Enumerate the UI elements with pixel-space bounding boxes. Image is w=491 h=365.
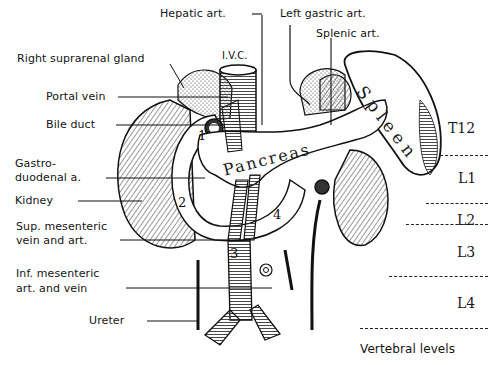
label-ivc: I.V.C. bbox=[222, 50, 248, 62]
label-kidney: Kidney bbox=[15, 195, 53, 207]
level-l1: L1 bbox=[458, 170, 476, 186]
label-gastroduodenal-a: Gastro- duodenal a. bbox=[15, 157, 81, 185]
level-divider bbox=[360, 328, 488, 329]
label-bile-duct: Bile duct bbox=[46, 119, 95, 131]
level-divider bbox=[389, 276, 488, 277]
label-splenic-art: Splenic art. bbox=[316, 28, 380, 40]
duodenum-part-2: 2 bbox=[178, 195, 186, 210]
level-divider bbox=[440, 155, 488, 156]
left-kidney bbox=[334, 150, 388, 245]
duodenum-part-1: 1 bbox=[198, 128, 206, 143]
label-portal-vein: Portal vein bbox=[46, 91, 106, 103]
label-left-gastric-art: Left gastric art. bbox=[280, 8, 366, 20]
level-l2: L2 bbox=[457, 212, 475, 228]
label-right-suprarenal-gland: Right suprarenal gland bbox=[17, 53, 145, 65]
level-divider bbox=[406, 224, 488, 225]
duodenum-part-3: 3 bbox=[230, 246, 238, 261]
label-sup-mesenteric: Sup. mesenteric vein and art. bbox=[16, 220, 107, 248]
stomach-stump bbox=[320, 75, 351, 110]
vertebral-levels-title: Vertebral levels bbox=[360, 343, 455, 355]
level-l4: L4 bbox=[457, 295, 475, 311]
label-inf-mesenteric: Inf. mesenteric art. and vein bbox=[16, 266, 99, 296]
level-divider bbox=[426, 203, 488, 204]
level-t12: T12 bbox=[448, 120, 475, 136]
label-ureter: Ureter bbox=[89, 315, 124, 327]
label-hepatic-art: Hepatic art. bbox=[160, 8, 226, 20]
left-ureter bbox=[312, 200, 320, 330]
level-l3: L3 bbox=[457, 244, 475, 260]
duodenum-part-4: 4 bbox=[273, 207, 281, 222]
